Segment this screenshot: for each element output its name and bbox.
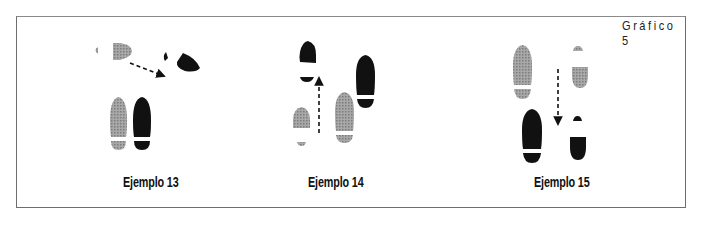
dashed-arrow-icon	[130, 63, 164, 76]
black-shoe-icon	[133, 97, 151, 137]
example-14-label: Ejemplo 14	[308, 173, 364, 190]
gray-heel-icon	[573, 46, 583, 51]
gray-toe-icon	[572, 67, 588, 88]
gray-toe-icon	[113, 43, 132, 60]
example-14-diagram	[293, 41, 375, 146]
black-shoe-heel-icon	[523, 153, 541, 163]
black-toe-icon	[177, 53, 200, 72]
example-15-diagram	[513, 45, 588, 163]
black-heel-icon	[573, 116, 582, 121]
black-heel-icon	[300, 77, 314, 82]
gray-shoe-heel-icon	[336, 135, 353, 143]
example-15-label: Ejemplo 15	[534, 173, 590, 190]
black-heel-icon	[164, 52, 168, 61]
black-toe-icon	[300, 41, 317, 63]
black-shoe-icon	[356, 55, 375, 95]
example-13-label: Ejemplo 13	[123, 173, 179, 190]
gray-shoe-icon	[513, 45, 532, 85]
gray-heel-icon	[96, 47, 99, 54]
gray-shoe-icon	[110, 97, 127, 137]
example-13-diagram	[96, 43, 201, 150]
black-toe-icon	[570, 137, 586, 160]
gray-shoe-heel-icon	[514, 89, 531, 99]
gray-heel-icon	[297, 142, 306, 146]
black-shoe-icon	[522, 109, 542, 149]
gray-toe-icon	[293, 107, 310, 128]
black-shoe-heel-icon	[134, 141, 150, 150]
gray-shoe-icon	[335, 92, 354, 131]
gray-shoe-heel-icon	[111, 141, 126, 150]
black-shoe-heel-icon	[357, 99, 374, 108]
